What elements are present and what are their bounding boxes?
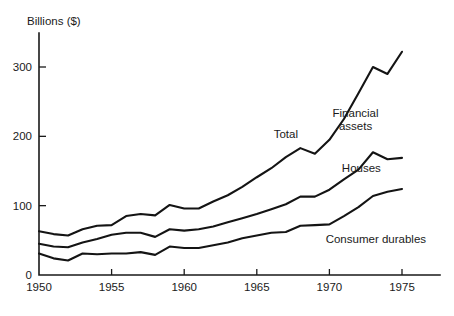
chart-container: 0100200300195019551960196519701975 Total… bbox=[0, 0, 454, 316]
x-axis-tick-label: 1960 bbox=[171, 281, 197, 293]
y-axis-tick-label: 200 bbox=[13, 130, 32, 142]
line-chart: 0100200300195019551960196519701975 Total… bbox=[0, 0, 454, 316]
series-annotation: Total bbox=[274, 128, 298, 140]
series-annotation: Consumer durables bbox=[326, 233, 427, 245]
x-axis-tick-label: 1950 bbox=[26, 281, 52, 293]
series-line-total bbox=[39, 52, 402, 236]
y-axis-tick-label: 100 bbox=[13, 200, 32, 212]
x-axis-tick-label: 1970 bbox=[317, 281, 343, 293]
series-annotation: Houses bbox=[342, 162, 381, 174]
y-axis-tick-label: 0 bbox=[26, 269, 32, 281]
series-lines bbox=[39, 52, 402, 261]
series-annotation: Financial bbox=[333, 107, 379, 119]
y-axis-title: Billions ($) bbox=[27, 15, 81, 27]
y-axis-tick-label: 300 bbox=[13, 61, 32, 73]
x-axis-tick-label: 1955 bbox=[99, 281, 125, 293]
x-axis-tick-label: 1975 bbox=[389, 281, 415, 293]
series-annotation: assets bbox=[339, 120, 372, 132]
x-axis-tick-label: 1965 bbox=[244, 281, 270, 293]
